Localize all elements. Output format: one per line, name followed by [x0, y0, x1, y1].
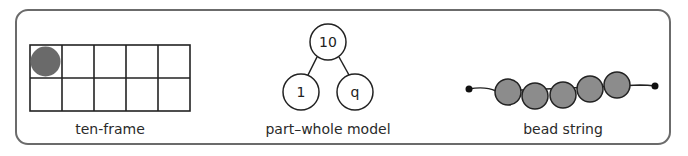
- whole-value: 10: [319, 34, 337, 50]
- ten-frame-label: ten-frame: [60, 121, 160, 137]
- counter-icon: [31, 47, 61, 77]
- string-end-right-icon: [652, 83, 659, 90]
- bead-string-label: bead string: [513, 121, 613, 137]
- bead-icon: [495, 79, 521, 105]
- bead-icon: [577, 76, 603, 102]
- bead-icon: [522, 83, 548, 109]
- part-value-right: q: [351, 84, 360, 100]
- part-value-left: 1: [297, 84, 306, 100]
- bead-icon: [550, 82, 576, 108]
- bead-string: [466, 72, 659, 109]
- part-whole-label: part–whole model: [258, 121, 398, 137]
- bead-icon: [604, 72, 630, 98]
- string-end-left-icon: [466, 86, 473, 93]
